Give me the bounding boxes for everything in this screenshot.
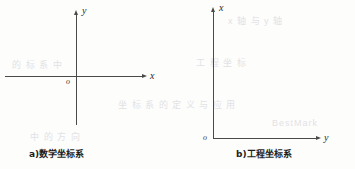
figure-page: 的 标 系 中 工 程 坐 标 BestMark 坐 标 系 的 定 义 与 应… [0, 0, 355, 169]
axis-x-arrow-icon [211, 7, 215, 12]
axis-y-line [213, 138, 317, 139]
panel-math-coordinate-system: x y o [0, 0, 178, 169]
origin-label: o [203, 133, 207, 142]
axis-y-arrow-icon [316, 136, 321, 140]
caption-panel-b: b)工程坐标系 [236, 147, 292, 160]
axis-x-line [213, 12, 214, 139]
axis-x-label: x [219, 2, 223, 13]
axis-y-arrow-icon [74, 10, 78, 15]
axis-y-label: y [324, 132, 328, 143]
origin-label: o [66, 77, 70, 86]
panel-engineering-coordinate-system: x y o [178, 0, 355, 169]
axis-y-line [76, 15, 77, 125]
caption-panel-a: a)数学坐标系 [29, 147, 84, 160]
axis-x-arrow-icon [142, 74, 147, 78]
axis-x-label: x [150, 70, 154, 81]
axis-x-line [5, 76, 143, 77]
axis-y-label: y [82, 5, 86, 16]
